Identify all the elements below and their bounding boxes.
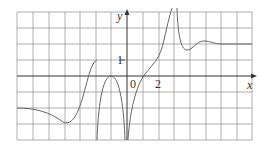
y-axis-label: y	[116, 9, 123, 23]
x-axis-label: x	[246, 78, 253, 92]
curve-left-branch	[17, 60, 97, 123]
tick-label-0: 0	[130, 77, 136, 91]
function-graph: y 1 0 2 x	[0, 0, 267, 151]
tick-label-2: 2	[155, 77, 161, 91]
tick-label-1: 1	[117, 53, 123, 67]
